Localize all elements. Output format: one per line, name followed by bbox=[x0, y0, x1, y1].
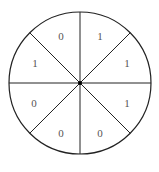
sector-wheel-diagram: 1 1 1 0 0 0 1 0 bbox=[0, 0, 159, 172]
center-dot bbox=[78, 81, 82, 85]
sector-label-top-left: 0 bbox=[58, 30, 64, 42]
sector-label-left-lower: 0 bbox=[31, 97, 37, 109]
sector-label-top-right: 1 bbox=[97, 30, 103, 42]
sector-label-bottom-left: 0 bbox=[58, 127, 64, 139]
sector-label-bottom-right: 0 bbox=[97, 127, 103, 139]
sector-label-left-upper: 1 bbox=[32, 57, 38, 69]
sector-label-right-upper: 1 bbox=[124, 57, 130, 69]
sector-label-right-lower: 1 bbox=[124, 97, 130, 109]
